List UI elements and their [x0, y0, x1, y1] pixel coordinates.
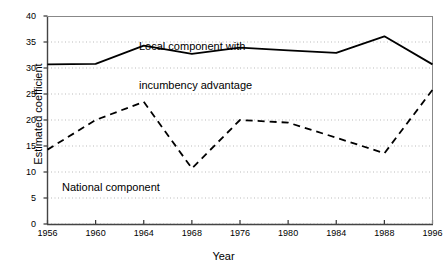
annotation-local-line1: Local component with — [139, 40, 252, 53]
chart-figure: Estimated coefficient Year 0510152025303… — [0, 0, 447, 273]
annotation-national-line1: National component — [62, 181, 160, 194]
annotation-local-line2: incumbency advantage — [139, 79, 252, 92]
x-tick-marks — [48, 220, 433, 224]
annotation-national-component: National component — [62, 155, 160, 220]
annotation-local-component: Local component with incumbency advantag… — [139, 14, 252, 118]
